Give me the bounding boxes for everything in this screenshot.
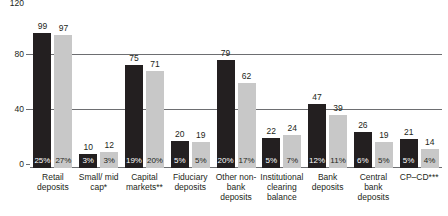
bar-wrapper: 9727% — [54, 35, 72, 168]
bar-value-label: 14 — [425, 138, 434, 147]
bar-percent-label: 4% — [424, 157, 436, 165]
bar-percent-label: 25% — [34, 157, 50, 165]
bar-groups: 9925%9727%103%123%7519%7120%205%195%7920… — [30, 4, 442, 168]
bar-percent-label: 27% — [55, 157, 71, 165]
bar-percent-label: 5% — [174, 157, 186, 165]
bar[interactable]: 12% — [308, 104, 326, 168]
bar-wrapper: 4712% — [308, 104, 326, 168]
bar-value-label: 10 — [83, 143, 92, 152]
bar-wrapper: 7519% — [125, 65, 143, 168]
bar-group: 9925%9727% — [30, 4, 76, 168]
x-axis-label: Small/ mid cap* — [76, 172, 122, 216]
bar-value-label: 79 — [221, 49, 230, 58]
x-axis-label: Bank deposits — [305, 172, 351, 216]
bar-wrapper: 215% — [400, 139, 418, 168]
bar[interactable]: 5% — [400, 139, 418, 168]
bar[interactable]: 5% — [171, 141, 189, 168]
bar-wrapper: 144% — [421, 149, 439, 168]
bar-value-label: 19 — [196, 131, 205, 140]
y-tick-label-120: 120 — [10, 0, 24, 8]
bar-wrapper: 6217% — [238, 83, 256, 168]
bar[interactable]: 17% — [238, 83, 256, 168]
bar-group: 266%195% — [350, 4, 396, 168]
bar[interactable]: 5% — [262, 138, 280, 168]
bar[interactable]: 25% — [33, 33, 51, 168]
bar-value-label: 39 — [333, 104, 342, 113]
bar[interactable]: 11% — [329, 115, 347, 168]
bar-percent-label: 17% — [239, 157, 255, 165]
bar[interactable]: 3% — [79, 154, 97, 168]
x-axis-label: Other non-bank deposits — [213, 172, 259, 216]
bar[interactable]: 20% — [146, 71, 164, 168]
bar[interactable]: 27% — [54, 35, 72, 168]
bar-group: 103%123% — [76, 4, 122, 168]
bar-wrapper: 123% — [100, 152, 118, 168]
x-axis-label: Retail deposits — [30, 172, 76, 216]
bar[interactable]: 3% — [100, 152, 118, 168]
bar[interactable]: 19% — [125, 65, 143, 168]
bar-wrapper: 205% — [171, 141, 189, 168]
bar-percent-label: 5% — [195, 157, 207, 165]
bar-value-label: 71 — [150, 60, 159, 69]
bar-value-label: 99 — [38, 22, 47, 31]
bar-value-label: 21 — [404, 128, 413, 137]
bar[interactable]: 6% — [354, 132, 372, 168]
y-tick-label-40: 40 — [15, 105, 24, 114]
y-axis: 120 80 40 0 — [0, 0, 30, 216]
bar[interactable]: 7% — [283, 135, 301, 168]
plot-area: 9925%9727%103%123%7519%7120%205%195%7920… — [30, 4, 442, 168]
bar-percent-label: 3% — [82, 157, 94, 165]
bar-wrapper: 266% — [354, 132, 372, 168]
bar-group: 205%195% — [167, 4, 213, 168]
x-axis-label: CP–CD*** — [396, 172, 442, 216]
bar-wrapper: 3911% — [329, 115, 347, 168]
bar-value-label: 24 — [288, 124, 297, 133]
bar[interactable]: 5% — [192, 142, 210, 168]
bar-wrapper: 225% — [262, 138, 280, 168]
bar-group: 7920%6217% — [213, 4, 259, 168]
bar-wrapper: 103% — [79, 154, 97, 168]
bar-percent-label: 20% — [147, 157, 163, 165]
x-axis-label: Capital markets** — [122, 172, 168, 216]
bar-wrapper: 7920% — [217, 60, 235, 168]
bar-percent-label: 6% — [357, 157, 369, 165]
bar-percent-label: 5% — [403, 157, 415, 165]
y-tick-label-80: 80 — [15, 50, 24, 59]
bar-value-label: 20 — [175, 130, 184, 139]
bar-value-label: 75 — [129, 54, 138, 63]
bar-group: 215%144% — [396, 4, 442, 168]
y-tick-label-0: 0 — [19, 160, 24, 169]
bar-percent-label: 5% — [378, 157, 390, 165]
x-axis-labels: Retail depositsSmall/ mid cap*Capital ma… — [30, 172, 442, 216]
bar-wrapper: 195% — [192, 142, 210, 168]
bar-percent-label: 12% — [309, 157, 325, 165]
bar-percent-label: 5% — [266, 157, 278, 165]
bar[interactable]: 4% — [421, 149, 439, 168]
bar-value-label: 26 — [358, 121, 367, 130]
bar[interactable]: 20% — [217, 60, 235, 168]
bar-group: 4712%3911% — [305, 4, 351, 168]
x-axis-label: Fiduciary deposits — [167, 172, 213, 216]
bar-wrapper: 247% — [283, 135, 301, 168]
bar-group: 225%247% — [259, 4, 305, 168]
x-axis-label: Central bank deposits — [350, 172, 396, 216]
bar-wrapper: 195% — [375, 142, 393, 168]
bar-chart: 120 80 40 0 9925%9727%103%123%7519%7120%… — [0, 0, 448, 216]
bar-value-label: 12 — [104, 141, 113, 150]
bar-percent-label: 11% — [330, 157, 345, 165]
bar-percent-label: 19% — [126, 157, 142, 165]
bar-value-label: 62 — [242, 72, 251, 81]
bar-percent-label: 3% — [103, 157, 115, 165]
bar-value-label: 19 — [379, 131, 388, 140]
bar-percent-label: 7% — [287, 157, 299, 165]
bar-group: 7519%7120% — [122, 4, 168, 168]
bar[interactable]: 5% — [375, 142, 393, 168]
bar-percent-label: 20% — [218, 157, 234, 165]
bar-wrapper: 7120% — [146, 71, 164, 168]
bar-value-label: 97 — [59, 24, 68, 33]
bar-wrapper: 9925% — [33, 33, 51, 168]
x-axis-label: Institutional clearing balance — [259, 172, 305, 216]
bar-value-label: 47 — [312, 93, 321, 102]
bar-value-label: 22 — [267, 127, 276, 136]
